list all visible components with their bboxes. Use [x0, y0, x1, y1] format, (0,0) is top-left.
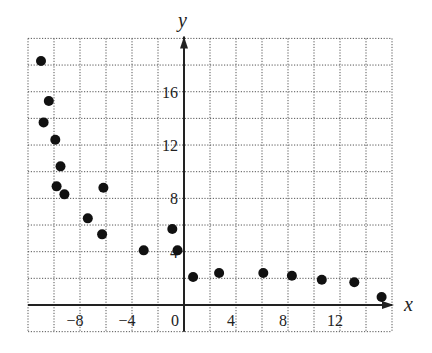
y-tick-label: 8	[170, 190, 178, 207]
data-point	[167, 224, 177, 234]
data-point	[287, 271, 297, 281]
data-point	[59, 189, 69, 199]
axes	[28, 36, 394, 331]
data-point	[39, 117, 49, 127]
tick-labels: −8−404812481216	[66, 84, 343, 329]
data-point	[188, 272, 198, 282]
x-tick-label: 0	[171, 312, 179, 329]
data-point	[56, 161, 66, 171]
data-point	[377, 292, 387, 302]
data-point	[214, 268, 224, 278]
y-axis-arrow-icon	[180, 36, 188, 48]
grid-lines	[28, 38, 392, 331]
data-point	[317, 275, 327, 285]
x-tick-label: −4	[118, 312, 135, 329]
data-point	[50, 135, 60, 145]
y-axis-label: y	[176, 9, 187, 32]
x-tick-label: 12	[327, 312, 343, 329]
x-tick-label: −8	[66, 312, 83, 329]
data-point	[97, 229, 107, 239]
data-point	[36, 56, 46, 66]
data-point	[52, 181, 62, 191]
y-tick-label: 12	[162, 137, 178, 154]
x-axis-label: x	[403, 293, 413, 315]
data-point	[258, 268, 268, 278]
data-point	[173, 245, 183, 255]
data-points	[36, 56, 387, 302]
scatter-plot: −8−404812481216 x y	[0, 0, 432, 353]
data-point	[83, 213, 93, 223]
data-point	[98, 183, 108, 193]
x-tick-label: 8	[279, 312, 287, 329]
y-tick-label: 16	[162, 84, 178, 101]
x-tick-label: 4	[227, 312, 235, 329]
data-point	[349, 277, 359, 287]
data-point	[139, 245, 149, 255]
data-point	[44, 96, 54, 106]
